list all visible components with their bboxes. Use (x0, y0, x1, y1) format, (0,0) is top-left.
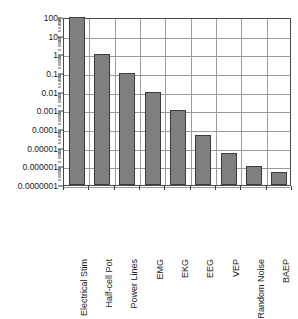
y-tick-minor (58, 39, 61, 40)
x-tick (63, 186, 64, 190)
y-tick-minor (58, 113, 61, 114)
y-tick-minor (58, 81, 61, 82)
y-tick-minor (58, 118, 61, 119)
y-tick-label: 0.000001 (23, 163, 58, 172)
y-tick-minor (58, 137, 61, 138)
y-tick-label: 0.1 (46, 70, 58, 79)
y-tick-minor (58, 171, 61, 172)
y-tick-minor (58, 58, 61, 59)
bar (271, 172, 287, 185)
y-tick-minor (58, 94, 61, 95)
gridline-horizontal (64, 187, 290, 188)
y-tick-minor (58, 83, 61, 84)
x-tick-label: Half-cell Pot (105, 259, 114, 308)
y-tick-minor (58, 151, 61, 152)
y-tick-minor (58, 87, 61, 88)
bar (94, 54, 110, 185)
y-tick-minor (58, 102, 61, 103)
y-tick-minor (58, 59, 61, 60)
y-tick-minor (58, 22, 61, 23)
bar (119, 73, 135, 185)
y-tick-minor (58, 40, 61, 41)
bar (170, 110, 186, 185)
x-tick-label: EMG (156, 259, 165, 280)
y-tick-label: 0.01 (41, 88, 58, 97)
x-tick (88, 186, 89, 190)
bar (195, 135, 211, 185)
y-tick-minor (58, 31, 61, 32)
y-tick-minor (58, 134, 61, 135)
y-tick-minor (58, 56, 61, 57)
y-tick-minor (58, 132, 61, 133)
y-tick-minor (58, 124, 61, 125)
y-tick-minor (58, 105, 61, 106)
y-tick-minor (58, 121, 61, 122)
y-tick-minor (58, 115, 61, 116)
x-axis-labels: Electrical StimHalf-cell PotPower LinesE… (63, 191, 291, 261)
y-tick-minor (58, 18, 61, 19)
y-tick-minor (58, 98, 61, 99)
bar (221, 153, 237, 185)
y-tick-minor (58, 168, 61, 169)
y-tick-minor (58, 49, 61, 50)
y-tick-minor (58, 96, 61, 97)
y-tick-minor (58, 44, 61, 45)
bar-series (64, 19, 290, 185)
y-tick-minor (58, 76, 61, 77)
y-tick-minor (58, 62, 61, 63)
y-tick-minor (58, 25, 61, 26)
y-tick-minor (58, 152, 61, 153)
y-tick-minor (58, 19, 61, 20)
x-tick (240, 186, 241, 190)
x-tick (266, 186, 267, 190)
x-tick (190, 186, 191, 190)
y-tick-minor (58, 60, 61, 61)
bar (246, 166, 262, 185)
y-tick-minor (58, 112, 61, 113)
y-tick-minor (58, 78, 61, 79)
y-tick-minor (58, 23, 61, 24)
y-tick-minor (58, 95, 61, 96)
y-tick-minor (58, 139, 61, 140)
y-tick-minor (58, 93, 61, 94)
x-tick (139, 186, 140, 190)
y-tick-minor (58, 79, 61, 80)
x-tick-label: Power Lines (130, 259, 139, 309)
bar (145, 92, 161, 185)
y-tick-minor (58, 170, 61, 171)
y-tick-minor (58, 27, 61, 28)
y-tick-minor (58, 130, 61, 131)
plot-area (63, 18, 291, 186)
y-tick-minor (58, 38, 61, 39)
x-tick-label: EKG (181, 259, 190, 278)
x-tick-label: Random Noise (257, 259, 266, 319)
y-tick-label: 10 (49, 32, 58, 41)
y-tick-label: 0.001 (37, 107, 58, 116)
y-tick-label: 100 (44, 14, 58, 23)
y-tick-minor (58, 180, 61, 181)
y-tick-label: 0.0000001 (18, 182, 58, 191)
y-tick-minor (58, 135, 61, 136)
y-tick-minor (58, 37, 61, 38)
x-tick (114, 186, 115, 190)
y-tick-minor (58, 42, 61, 43)
y-axis: 1001010.10.010.0010.00010.000010.0000010… (0, 18, 58, 186)
bar (69, 17, 85, 185)
x-tick-label: BAEP (282, 259, 291, 283)
x-tick (291, 186, 292, 190)
x-tick-label: VEP (232, 259, 241, 277)
y-tick-label: 0.0001 (32, 126, 58, 135)
y-tick-minor (58, 161, 61, 162)
y-tick-minor (58, 174, 61, 175)
y-tick-minor (58, 154, 61, 155)
y-tick-label: 0.00001 (27, 144, 58, 153)
y-tick-minor (58, 177, 61, 178)
y-tick-minor (58, 150, 61, 151)
y-tick-minor (58, 169, 61, 170)
y-tick-minor (58, 149, 61, 150)
x-tick (215, 186, 216, 190)
y-tick-minor (58, 143, 61, 144)
y-tick-minor (58, 156, 61, 157)
y-tick-minor (58, 116, 61, 117)
